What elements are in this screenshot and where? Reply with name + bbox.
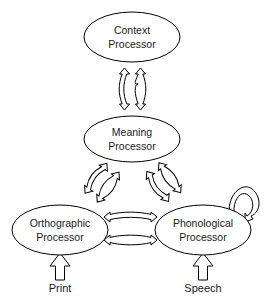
- meaning-processor-label-line1: Meaning: [112, 126, 152, 138]
- connector-meaning-orthographic: [81, 160, 123, 205]
- input-label-print: Print: [49, 282, 72, 294]
- connector-context-meaning: [119, 68, 146, 110]
- context-processor-label-line1: Context: [114, 24, 150, 36]
- phonological-processor-label-line1: Phonological: [173, 217, 233, 229]
- connector-orthographic-phonological: [104, 212, 157, 245]
- double-arrow-vertical-left: [119, 68, 129, 110]
- connector-meaning-phonological: [143, 160, 185, 205]
- diagram-canvas: Context Processor Meaning Processor Orth…: [0, 0, 275, 306]
- meaning-processor-label-line2: Processor: [108, 140, 156, 152]
- node-phonological-processor[interactable]: Phonological Processor: [155, 205, 251, 255]
- context-processor-label-line2: Processor: [108, 38, 156, 50]
- double-arrow-vertical-right: [135, 68, 146, 110]
- node-orthographic-processor[interactable]: Orthographic Processor: [12, 205, 108, 255]
- node-meaning-processor[interactable]: Meaning Processor: [84, 116, 180, 162]
- input-arrow-print: [50, 253, 70, 280]
- node-context-processor[interactable]: Context Processor: [84, 12, 180, 62]
- double-arrow-horizontal-top: [104, 212, 157, 222]
- print-up-arrow-icon: [50, 253, 70, 280]
- orthographic-processor-label-line1: Orthographic: [30, 217, 91, 229]
- four-processor-model-diagram: Context Processor Meaning Processor Orth…: [0, 0, 275, 306]
- double-arrow-horizontal-bottom: [104, 235, 157, 245]
- input-arrow-speech: [193, 253, 213, 280]
- phonological-processor-label-line2: Processor: [179, 231, 227, 243]
- speech-up-arrow-icon: [193, 253, 213, 280]
- orthographic-processor-label-line2: Processor: [36, 231, 84, 243]
- input-label-speech: Speech: [184, 282, 221, 294]
